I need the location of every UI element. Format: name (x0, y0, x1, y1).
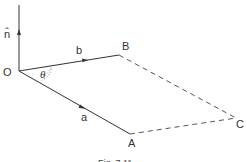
figure-caption: Fig. 7.11 (98, 158, 132, 162)
vector-a-label: a (81, 111, 88, 123)
dashed-side-ac (130, 118, 236, 134)
vector-b-label: b (76, 44, 82, 56)
point-b-label: B (122, 40, 129, 52)
point-o-label: O (3, 66, 12, 78)
parallelogram-diagram: n̂ O b B θ a A C Fig. 7.11 (0, 0, 247, 162)
vector-a-line (19, 71, 130, 134)
angle-theta-label: θ (40, 68, 46, 80)
normal-label: n̂ (4, 27, 10, 40)
point-c-label: C (236, 118, 244, 130)
point-a-label: A (128, 137, 136, 149)
dashed-side-bc (119, 55, 236, 118)
vector-b-line (19, 55, 119, 71)
normal-arrowhead-icon (17, 29, 21, 35)
